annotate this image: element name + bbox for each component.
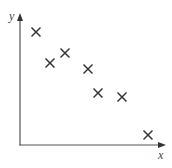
data-point-x-marker-icon [61,49,70,58]
data-point-x-marker-icon [94,89,103,98]
scatter-plot [0,0,172,168]
data-point-x-marker-icon [84,65,93,74]
data-point-x-marker-icon [144,131,153,140]
data-point-x-marker-icon [32,28,41,37]
data-point-x-marker-icon [118,93,127,102]
y-axis-label: y [9,9,14,24]
x-axis-label: x [158,148,163,163]
y-axis-arrow-icon [17,13,23,21]
data-markers [32,28,153,140]
axes [17,13,166,148]
data-point-x-marker-icon [46,59,55,68]
